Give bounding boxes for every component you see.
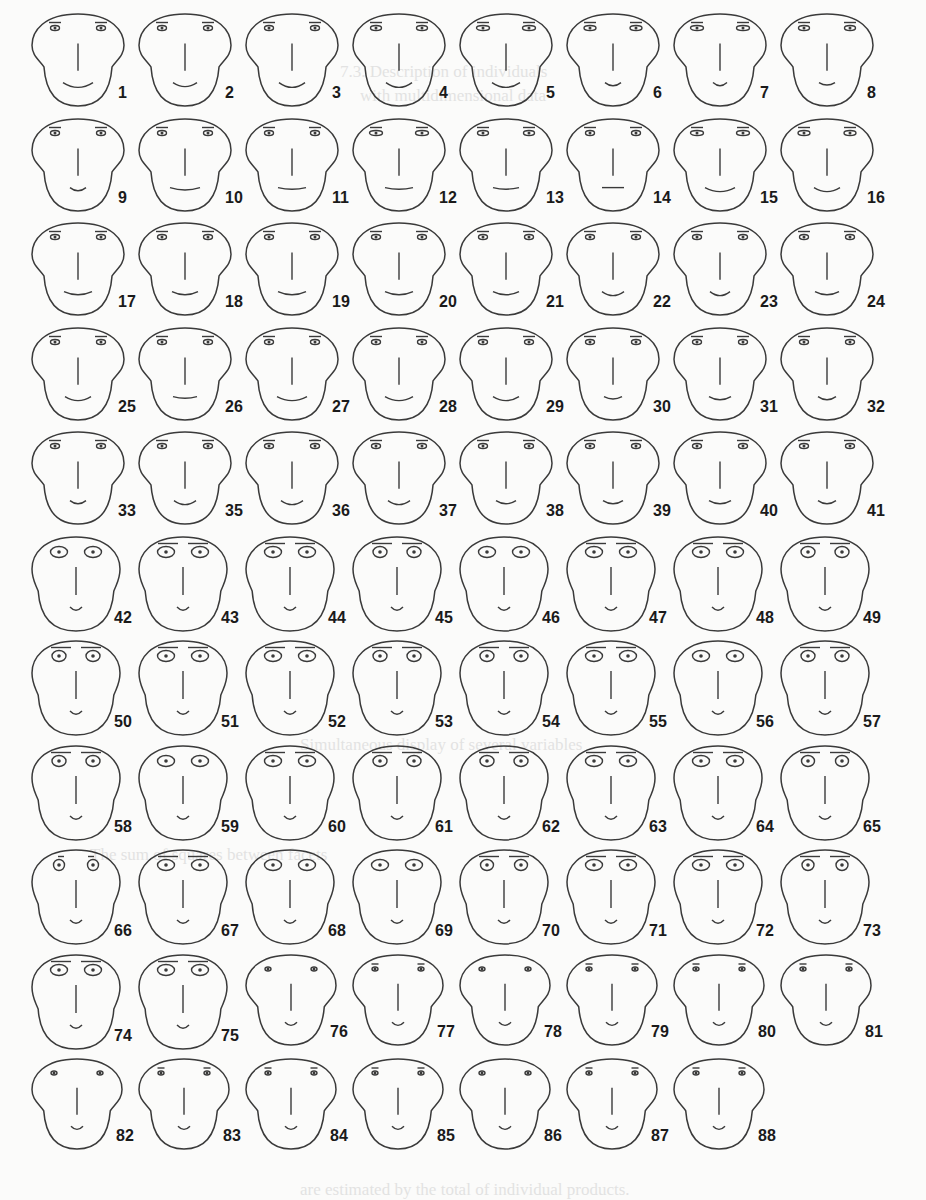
face-number-label: 21 bbox=[546, 293, 564, 311]
face-drawing bbox=[244, 531, 336, 635]
mouth bbox=[285, 1022, 297, 1025]
mouth bbox=[499, 1022, 511, 1025]
face-drawing bbox=[779, 949, 873, 1049]
face-drawing bbox=[565, 426, 661, 528]
face-number-label: 32 bbox=[867, 398, 885, 416]
mouth bbox=[70, 607, 82, 610]
face-number-label: 41 bbox=[867, 502, 885, 520]
pupil bbox=[161, 27, 164, 30]
pupil bbox=[589, 236, 592, 239]
face-number-label: 66 bbox=[114, 922, 132, 940]
mouth bbox=[709, 501, 731, 504]
pupil bbox=[378, 654, 382, 658]
face-number-label: 68 bbox=[328, 922, 346, 940]
pupil bbox=[313, 1072, 316, 1075]
pupil bbox=[54, 340, 57, 343]
pupil bbox=[421, 340, 424, 343]
face-number-label: 10 bbox=[225, 189, 243, 207]
mouth bbox=[71, 1126, 83, 1129]
pupil bbox=[634, 1072, 637, 1075]
chernoff-face: 23 bbox=[672, 217, 784, 325]
chernoff-face: 53 bbox=[351, 635, 463, 743]
chernoff-face: 55 bbox=[565, 635, 677, 743]
face-number-label: 61 bbox=[435, 818, 453, 836]
face-number-label: 64 bbox=[756, 818, 774, 836]
chernoff-face: 2 bbox=[137, 8, 249, 116]
pupil bbox=[696, 131, 699, 134]
bleed-through-text: are estimated by the total of individual… bbox=[300, 1180, 630, 1200]
mouth bbox=[391, 816, 403, 819]
face-number-label: 83 bbox=[223, 1127, 241, 1145]
face-number-label: 52 bbox=[328, 713, 346, 731]
mouth bbox=[498, 816, 510, 819]
pupil bbox=[305, 550, 309, 554]
pupil bbox=[592, 863, 596, 867]
pupil bbox=[161, 340, 164, 343]
face-drawing bbox=[565, 844, 657, 948]
face-number-label: 82 bbox=[116, 1127, 134, 1145]
pupil bbox=[699, 654, 703, 658]
mouth bbox=[498, 920, 510, 923]
chernoff-face: 54 bbox=[458, 635, 570, 743]
mouth bbox=[819, 816, 831, 819]
face-drawing bbox=[458, 740, 550, 844]
face-drawing bbox=[244, 217, 340, 319]
pupil bbox=[848, 967, 851, 970]
mouth bbox=[391, 920, 403, 923]
mouth bbox=[712, 816, 724, 819]
pupil bbox=[421, 131, 424, 134]
face-drawing bbox=[672, 740, 764, 844]
pupil bbox=[207, 236, 210, 239]
face-drawing bbox=[779, 322, 875, 424]
face-number-label: 84 bbox=[330, 1127, 348, 1145]
face-number-label: 56 bbox=[756, 713, 774, 731]
pupil bbox=[57, 759, 61, 763]
chernoff-face: 43 bbox=[137, 531, 249, 639]
mouth bbox=[385, 187, 413, 189]
face-number-label: 4 bbox=[439, 84, 448, 102]
chernoff-face: 22 bbox=[565, 217, 677, 325]
pupil bbox=[849, 445, 852, 448]
face-number-label: 30 bbox=[653, 398, 671, 416]
face-number-label: 8 bbox=[867, 84, 876, 102]
chernoff-face: 5 bbox=[458, 8, 570, 116]
face-drawing bbox=[351, 635, 443, 739]
mouth bbox=[173, 83, 197, 87]
face-number-label: 9 bbox=[118, 189, 127, 207]
mouth bbox=[712, 607, 724, 610]
face-number-label: 31 bbox=[760, 398, 778, 416]
pupil bbox=[375, 131, 378, 134]
chernoff-face: 31 bbox=[672, 322, 784, 430]
pupil bbox=[305, 654, 309, 658]
mouth bbox=[385, 396, 413, 400]
chernoff-face: 85 bbox=[351, 1053, 463, 1161]
face-number-label: 65 bbox=[863, 818, 881, 836]
face-number-label: 80 bbox=[758, 1023, 776, 1041]
chernoff-face: 44 bbox=[244, 531, 356, 639]
pupil bbox=[635, 340, 638, 343]
pupil bbox=[485, 654, 489, 658]
face-drawing bbox=[565, 635, 657, 739]
face-drawing bbox=[351, 8, 447, 110]
pupil bbox=[635, 131, 638, 134]
pupil bbox=[741, 1072, 744, 1075]
chernoff-face: 37 bbox=[351, 426, 463, 534]
face-number-label: 73 bbox=[863, 922, 881, 940]
face-drawing bbox=[779, 531, 871, 635]
mouth bbox=[820, 1022, 832, 1025]
chernoff-face: 29 bbox=[458, 322, 570, 430]
face-drawing bbox=[137, 113, 233, 215]
chernoff-face: 88 bbox=[672, 1053, 784, 1161]
pupil bbox=[54, 445, 57, 448]
chernoff-face: 58 bbox=[30, 740, 142, 848]
chernoff-face: 35 bbox=[137, 426, 249, 534]
mouth bbox=[284, 920, 296, 923]
mouth bbox=[818, 501, 836, 504]
mouth bbox=[605, 711, 617, 714]
pupil bbox=[314, 340, 317, 343]
pupil bbox=[742, 27, 745, 30]
face-number-label: 86 bbox=[544, 1127, 562, 1145]
pupil bbox=[268, 445, 271, 448]
chernoff-face: 15 bbox=[672, 113, 784, 221]
chernoff-face: 32 bbox=[779, 322, 891, 430]
